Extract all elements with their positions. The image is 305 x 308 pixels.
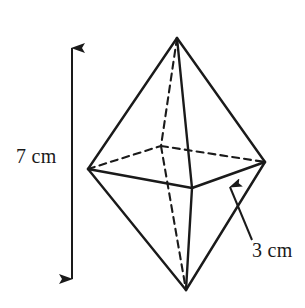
edge-left-to-bottom-apex (88, 169, 186, 290)
edge-top-apex-to-right (177, 38, 265, 162)
edge-right-to-bottom-apex (186, 162, 265, 290)
height-label: 7 cm (16, 146, 57, 166)
hidden-edge-left-to-back (88, 146, 161, 169)
base-edge-front-to-right (192, 162, 265, 188)
geometry-figure: 7 cm 3 cm (0, 0, 305, 308)
hidden-edges-group (88, 38, 265, 290)
visible-edges-group (88, 38, 265, 290)
base-edge-label: 3 cm (252, 240, 293, 260)
hidden-edge-back-to-bottom-apex (161, 146, 186, 290)
hidden-edge-top-apex-to-back (161, 38, 177, 146)
edge-top-apex-to-front (177, 38, 192, 188)
edge-top-apex-to-left (88, 38, 177, 169)
base-edge-left-to-front (88, 169, 192, 188)
edge-front-to-bottom-apex (186, 188, 192, 290)
hidden-edge-back-to-right (161, 146, 265, 162)
